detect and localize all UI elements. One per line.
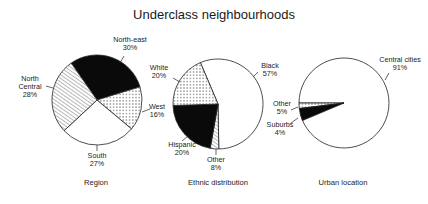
caption-ethnic: Ethnic distribution (188, 178, 248, 187)
svg-text:16%: 16% (150, 110, 165, 119)
svg-text:20%: 20% (175, 148, 190, 157)
urban-pie (299, 58, 389, 148)
region-pie (52, 55, 142, 145)
svg-text:4%: 4% (275, 128, 286, 137)
svg-text:57%: 57% (263, 69, 278, 78)
svg-text:28%: 28% (23, 90, 38, 99)
ethnic-pie (173, 59, 263, 149)
pie-charts: North-east 30% West 16% South 27% North … (0, 0, 428, 204)
svg-text:30%: 30% (123, 43, 138, 52)
svg-text:20%: 20% (152, 71, 167, 80)
svg-text:91%: 91% (393, 63, 408, 72)
svg-text:27%: 27% (90, 159, 105, 168)
caption-urban: Urban location (319, 178, 368, 187)
caption-region: Region (84, 178, 108, 187)
svg-text:5%: 5% (277, 107, 288, 116)
svg-text:8%: 8% (211, 163, 222, 172)
